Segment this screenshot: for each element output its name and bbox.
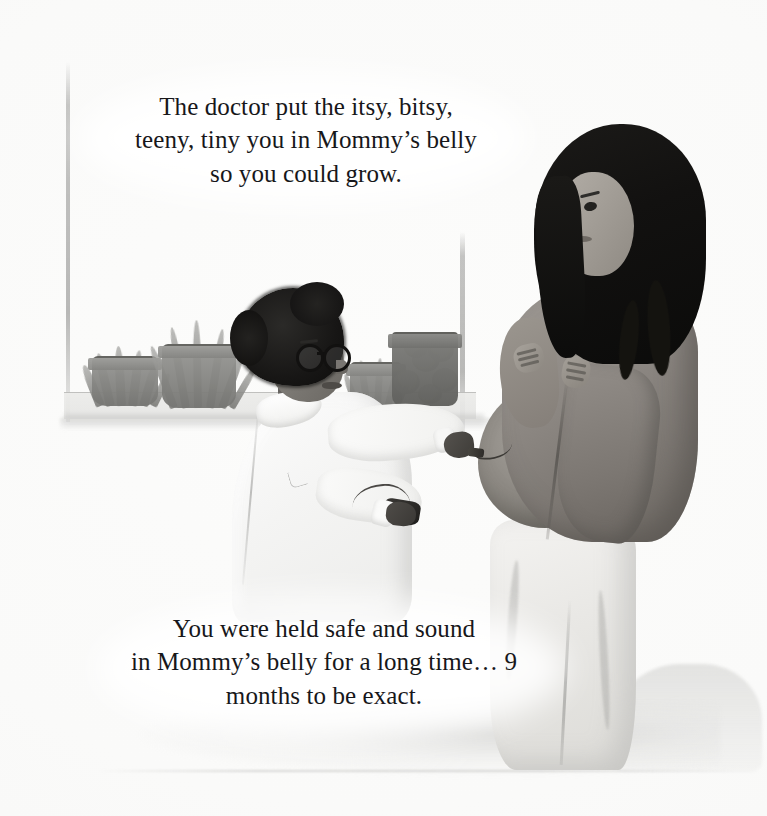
story-text-bottom-line-1: You were held safe and sound [96, 612, 552, 645]
succulent-pot [92, 356, 158, 406]
story-text-top-line-1: The doctor put the itsy, bitsy, [72, 90, 540, 123]
doctor-afro-hair [238, 288, 344, 386]
doppler-probe-tip [468, 447, 485, 458]
doctor-mouth [322, 382, 342, 389]
flowering-pot [392, 332, 458, 406]
plant-flowering [392, 258, 464, 406]
snake-plant-pot [162, 344, 236, 408]
story-text-top-line-3: so you could grow. [72, 157, 540, 190]
illustration-page: The doctor put the itsy, bitsy, teeny, t… [0, 0, 767, 816]
story-text-top-line-2: teeny, tiny you in Mommy’s belly [72, 123, 540, 156]
floor-line [96, 770, 736, 772]
round-glasses-icon [296, 344, 350, 366]
story-text-bottom-line-3: months to be exact. [96, 679, 552, 712]
story-text-bottom: You were held safe and sound in Mommy’s … [96, 612, 552, 712]
story-text-bottom-line-2: in Mommy’s belly for a long time… 9 [96, 645, 552, 678]
story-text-top: The doctor put the itsy, bitsy, teeny, t… [72, 90, 540, 190]
window-frame-left-icon [66, 62, 70, 422]
